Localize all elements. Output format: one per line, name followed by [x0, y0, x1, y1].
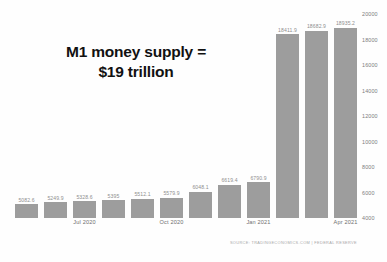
- x-axis: Jul 2020Oct 2020Jan 2021Apr 2021: [12, 219, 360, 231]
- y-axis-tick-label: 14000: [362, 88, 387, 94]
- bar-slot: 6790.9: [247, 14, 270, 218]
- y-axis-tick-label: 8000: [362, 164, 387, 170]
- bar-slot: 18935.2: [334, 14, 357, 218]
- bar[interactable]: [160, 198, 183, 218]
- chart-title-line-2: $19 trillion: [36, 62, 236, 82]
- x-axis-tick-label: Jul 2020: [73, 219, 95, 225]
- x-axis-tick-label: Apr 2021: [334, 219, 358, 225]
- bar-value-label: 5395: [108, 193, 120, 199]
- bar[interactable]: [131, 199, 154, 218]
- y-axis-tick-label: 20000: [362, 11, 387, 17]
- bar[interactable]: [15, 204, 38, 218]
- bar-value-label: 6790.9: [250, 175, 266, 181]
- y-axis-tick-label: 6000: [362, 190, 387, 196]
- x-axis-tick-label: Jan 2021: [246, 219, 270, 225]
- bar[interactable]: [189, 192, 212, 218]
- bar-value-label: 18682.9: [307, 23, 326, 29]
- bar-value-label: 6619.4: [221, 177, 237, 183]
- bar-slot: 18411.9: [276, 14, 299, 218]
- chart-title-line-1: M1 money supply =: [36, 42, 236, 62]
- bar[interactable]: [334, 28, 357, 218]
- bar-value-label: 5512.1: [134, 191, 150, 197]
- bar-slot: 18682.9: [305, 14, 328, 218]
- bar-value-label: 18935.2: [336, 20, 355, 26]
- bar[interactable]: [276, 34, 299, 218]
- bar-value-label: 6048.1: [192, 184, 208, 190]
- bar-value-label: 5082.6: [18, 197, 34, 203]
- y-axis-tick-label: 16000: [362, 62, 387, 68]
- bar-value-label: 5328.6: [76, 194, 92, 200]
- bar-value-label: 18411.9: [278, 27, 297, 33]
- bar[interactable]: [218, 185, 241, 218]
- bar-value-label: 5579.9: [163, 190, 179, 196]
- source-attribution: SOURCE: TRADINGECONOMICS.COM | FEDERAL R…: [0, 240, 357, 245]
- bar[interactable]: [305, 31, 328, 218]
- bar[interactable]: [73, 201, 96, 218]
- bar-slot: 5082.6: [15, 14, 38, 218]
- x-axis-tick-label: Oct 2020: [160, 219, 184, 225]
- chart-title: M1 money supply = $19 trillion: [36, 42, 236, 82]
- y-axis-tick-label: 4000: [362, 215, 387, 221]
- bar[interactable]: [44, 202, 67, 218]
- chart-container: 5082.65249.95328.653955512.15579.96048.1…: [0, 0, 387, 262]
- bar-value-label: 5249.9: [47, 195, 63, 201]
- y-axis: 4000600080001000012000140001600018000200…: [362, 14, 387, 218]
- bar[interactable]: [247, 182, 270, 218]
- bar[interactable]: [102, 200, 125, 218]
- y-axis-tick-label: 18000: [362, 37, 387, 43]
- y-axis-tick-label: 12000: [362, 113, 387, 119]
- y-axis-tick-label: 10000: [362, 139, 387, 145]
